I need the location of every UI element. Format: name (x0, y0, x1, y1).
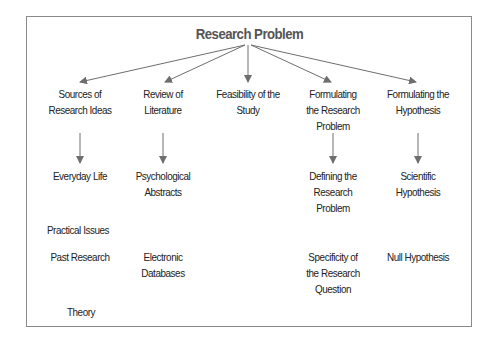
node-line: Problem (288, 118, 378, 134)
node-line: Formulating (288, 86, 378, 102)
node-line: Scientific (373, 168, 463, 184)
node-line: Question (288, 281, 378, 297)
node-line: Defining the (288, 168, 378, 184)
node-line: Study (203, 102, 293, 118)
node-line: Problem (288, 200, 378, 216)
node-line: the Research (288, 102, 378, 118)
node-line: Electronic (118, 249, 208, 265)
node-null-hypothesis: Null Hypothesis (373, 249, 463, 265)
node-theory: Theory (36, 304, 126, 320)
node-line: Hypothesis (373, 184, 463, 200)
arrow-to-formulating-hypothesis (251, 45, 416, 82)
node-scientific-hypothesis: Scientific Hypothesis (373, 168, 463, 200)
arrow-to-sources (80, 45, 245, 82)
node-past-research: Past Research (35, 249, 125, 265)
node-specificity-of-research-question: Specificity of the Research Question (288, 249, 378, 297)
arrow-to-review (165, 45, 245, 82)
node-line: Literature (118, 102, 208, 118)
node-electronic-databases: Electronic Databases (118, 249, 208, 281)
node-sources-of-research-ideas: Sources of Research Ideas (35, 86, 125, 118)
node-line: Feasibility of the (203, 86, 293, 102)
node-defining-research-problem: Defining the Research Problem (288, 168, 378, 216)
node-line: Sources of (35, 86, 125, 102)
node-line: Databases (118, 265, 208, 281)
node-formulating-hypothesis: Formulating the Hypothesis (373, 86, 463, 118)
node-practical-issues: Practical Issues (33, 222, 123, 238)
node-line: Abstracts (118, 184, 208, 200)
node-line: Review of (118, 86, 208, 102)
node-formulating-research-problem: Formulating the Research Problem (288, 86, 378, 134)
arrow-to-formulating-problem (251, 45, 331, 82)
node-feasibility-of-study: Feasibility of the Study (203, 86, 293, 118)
node-line: Specificity of (288, 249, 378, 265)
node-line: Research (288, 184, 378, 200)
node-line: Psychological (118, 168, 208, 184)
node-everyday-life: Everyday Life (35, 168, 125, 184)
node-line: Research Ideas (35, 102, 125, 118)
node-line: Hypothesis (373, 102, 463, 118)
node-line: the Research (288, 265, 378, 281)
node-line: Formulating the (373, 86, 463, 102)
node-review-of-literature: Review of Literature (118, 86, 208, 118)
node-psychological-abstracts: Psychological Abstracts (118, 168, 208, 200)
